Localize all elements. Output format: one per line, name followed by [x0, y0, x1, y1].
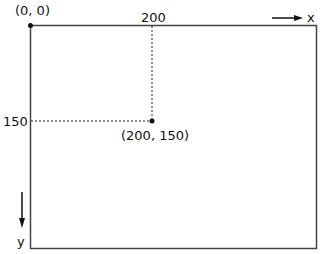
point-dot: [150, 119, 155, 124]
y-tick-label: 150: [3, 115, 28, 128]
origin-dot: [28, 23, 33, 28]
x-axis-arrow-icon: [272, 15, 303, 21]
origin-label: (0, 0): [15, 4, 50, 17]
x-tick-label: 200: [141, 11, 166, 24]
y-axis-arrow-icon: [19, 192, 25, 228]
point-label: (200, 150): [121, 129, 189, 142]
x-axis-label: x: [307, 11, 315, 24]
coordinate-diagram: [0, 0, 323, 254]
y-axis-label: y: [17, 235, 25, 248]
